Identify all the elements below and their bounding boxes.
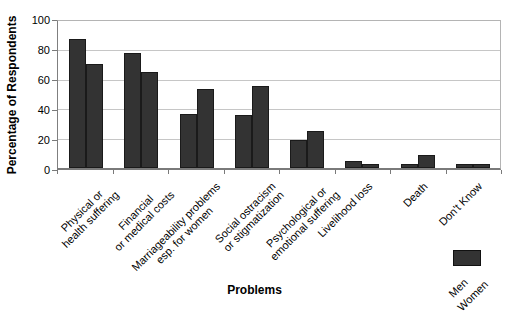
bar-women-3 bbox=[197, 89, 214, 168]
bar-women-5 bbox=[307, 131, 324, 168]
x-axis-title: Problems bbox=[0, 283, 509, 297]
y-tick-20 bbox=[52, 140, 57, 141]
x-category-label-7: Death bbox=[400, 180, 429, 209]
plot-area bbox=[57, 20, 501, 170]
bar-men-4 bbox=[235, 115, 252, 168]
bar-women-4 bbox=[252, 86, 269, 168]
bar-men-7 bbox=[401, 164, 418, 168]
x-axis-tick bbox=[113, 170, 114, 174]
bar-men-3 bbox=[180, 114, 197, 168]
y-tick-label-40: 40 bbox=[14, 103, 50, 117]
bar-women-1 bbox=[86, 64, 103, 168]
y-tick-label-60: 60 bbox=[14, 73, 50, 87]
y-tick-100 bbox=[52, 20, 57, 21]
x-axis-tick bbox=[224, 170, 225, 174]
x-axis-tick bbox=[57, 170, 58, 174]
gridline-80 bbox=[58, 50, 500, 51]
x-axis-tick bbox=[390, 170, 391, 174]
y-tick-label-20: 20 bbox=[14, 133, 50, 147]
bar-men-5 bbox=[290, 140, 307, 168]
y-tick-80 bbox=[52, 50, 57, 51]
y-tick-60 bbox=[52, 80, 57, 81]
x-axis-tick bbox=[168, 170, 169, 174]
bar-men-8 bbox=[456, 164, 473, 168]
bar-men-6 bbox=[345, 161, 362, 168]
bar-men-2 bbox=[124, 53, 141, 168]
bar-women-6 bbox=[362, 164, 379, 168]
x-axis-tick bbox=[279, 170, 280, 174]
legend-swatch bbox=[453, 250, 481, 266]
bar-chart: Percentage of Respondents Problems Men W… bbox=[0, 0, 509, 316]
y-tick-40 bbox=[52, 110, 57, 111]
bar-men-1 bbox=[69, 39, 86, 168]
x-axis-tick bbox=[446, 170, 447, 174]
y-tick-label-80: 80 bbox=[14, 43, 50, 57]
y-tick-label-0: 0 bbox=[14, 163, 50, 177]
x-axis-tick bbox=[501, 170, 502, 174]
x-axis-tick bbox=[335, 170, 336, 174]
x-category-label-8: Don't Know bbox=[436, 180, 484, 228]
bar-women-7 bbox=[418, 155, 435, 168]
bar-women-2 bbox=[141, 72, 158, 168]
y-axis-title: Percentage of Respondents bbox=[5, 16, 19, 175]
bar-women-8 bbox=[473, 164, 490, 168]
y-tick-label-100: 100 bbox=[14, 13, 50, 27]
